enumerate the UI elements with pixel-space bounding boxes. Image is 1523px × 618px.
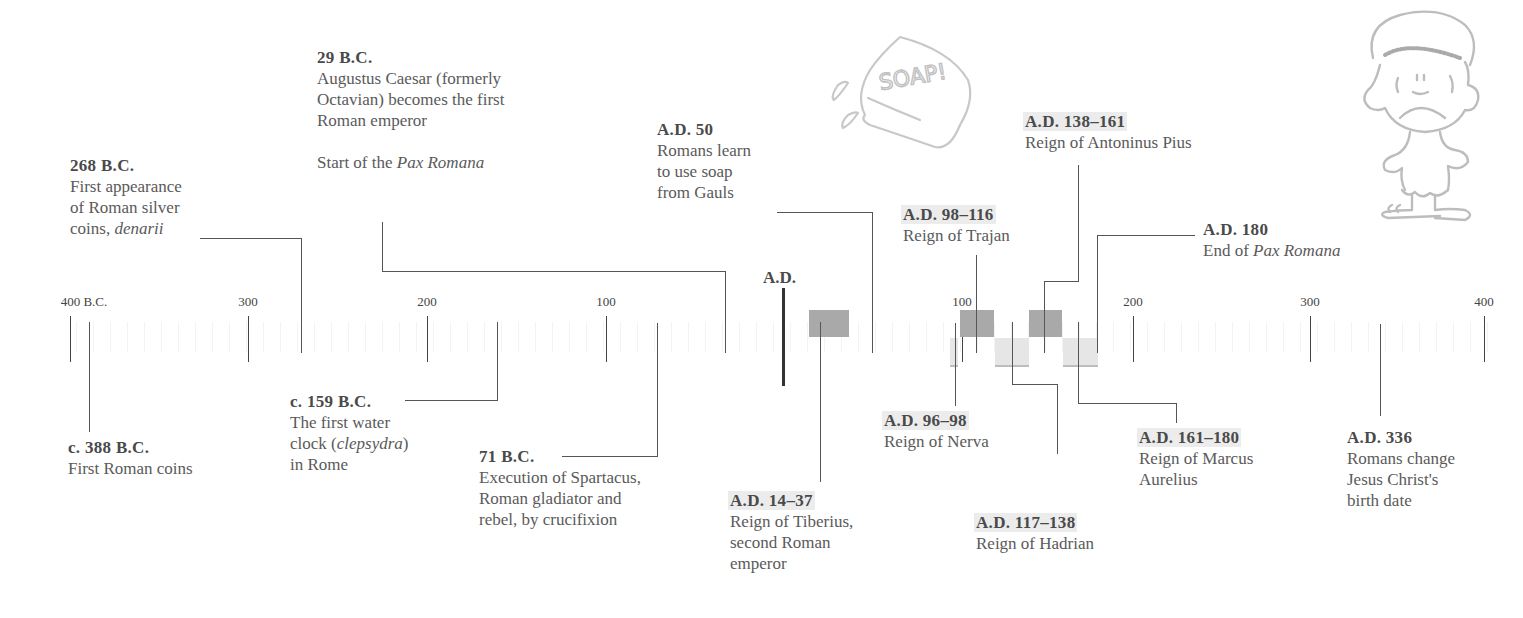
- reign-block-marcus: [1063, 338, 1098, 367]
- event-date: c. 388 B.C.: [68, 437, 193, 458]
- event-text: Romans learn: [657, 140, 751, 161]
- event-71bc: 71 B.C. Execution of Spartacus, Roman gl…: [479, 446, 641, 530]
- event-date: A.D. 336: [1347, 427, 1455, 448]
- event-ad336: A.D. 336 Romans change Jesus Christ's bi…: [1347, 427, 1455, 511]
- event-text-italic: Pax Romana: [1253, 241, 1340, 260]
- connector-ad117-v1: [1012, 322, 1013, 384]
- event-text: Reign of Hadrian: [976, 533, 1094, 554]
- tick-100bc: [606, 316, 607, 362]
- event-date: A.D. 138–161: [1023, 112, 1127, 131]
- connector-ad336: [1380, 324, 1381, 416]
- tick-400ad: [1484, 316, 1485, 362]
- connector-29bc-v1: [382, 222, 383, 272]
- event-text: Octavian) becomes the first: [317, 89, 504, 110]
- connector-ad50-h: [777, 212, 873, 213]
- tick-200ad: [1133, 316, 1134, 362]
- event-ad14: A.D. 14–37 Reign of Tiberius, second Rom…: [730, 490, 853, 574]
- event-text: clock (: [290, 434, 337, 453]
- event-ad180: A.D. 180 End of Pax Romana: [1203, 219, 1340, 261]
- connector-ad161-v2: [1176, 403, 1177, 423]
- event-text: to use soap: [657, 161, 751, 182]
- sad-boy-icon: [1340, 0, 1520, 225]
- event-date: A.D. 14–37: [728, 491, 815, 510]
- event-date: 29 B.C.: [317, 47, 504, 68]
- event-ad138: A.D. 138–161 Reign of Antoninus Pius: [1025, 111, 1192, 153]
- connector-ad180-v: [1097, 235, 1098, 353]
- tick-label-400bc: 400 B.C.: [61, 294, 108, 310]
- event-159bc: c. 159 B.C. The first water clock (cleps…: [290, 391, 409, 475]
- reign-block-trajan: [960, 310, 994, 337]
- event-text: Reign of Antoninus Pius: [1025, 132, 1192, 153]
- event-text: Jesus Christ's: [1347, 469, 1455, 490]
- event-date: A.D. 98–116: [901, 205, 996, 224]
- connector-ad117-v2: [1057, 384, 1058, 454]
- era-marker-ad: A.D.: [763, 268, 796, 288]
- event-text: in Rome: [290, 454, 409, 475]
- connector-268bc-h: [200, 238, 302, 239]
- connector-ad98: [976, 255, 977, 353]
- event-text: First appearance: [70, 176, 182, 197]
- event-text-italic: denarii: [114, 219, 163, 238]
- tick-label-200ad: 200: [1123, 294, 1143, 310]
- event-date: A.D. 117–138: [974, 513, 1077, 532]
- tick-400bc: [70, 316, 71, 362]
- connector-ad117-h: [1012, 384, 1058, 385]
- connector-ad138-h: [1044, 281, 1079, 282]
- connector-388bc: [89, 322, 90, 432]
- timeline-axis-background: [60, 322, 1500, 352]
- event-text: Aurelius: [1139, 469, 1253, 490]
- connector-71bc-v: [657, 323, 658, 457]
- event-text: rebel, by crucifixion: [479, 509, 641, 530]
- event-text: Reign of Trajan: [903, 225, 1010, 246]
- connector-29bc-h: [382, 271, 726, 272]
- reign-block-nerva: [950, 338, 958, 367]
- event-ad98: A.D. 98–116 Reign of Trajan: [903, 204, 1010, 246]
- event-text: First Roman coins: [68, 458, 193, 479]
- tick-label-400ad: 400: [1474, 294, 1494, 310]
- event-ad161: A.D. 161–180 Reign of Marcus Aurelius: [1139, 427, 1253, 490]
- event-text: ): [403, 434, 409, 453]
- reign-block-antoninus: [1029, 310, 1062, 337]
- event-text: Roman emperor: [317, 110, 504, 131]
- event-date: A.D. 180: [1203, 219, 1340, 240]
- event-date: A.D. 50: [657, 119, 751, 140]
- event-text: Romans change: [1347, 448, 1455, 469]
- event-388bc: c. 388 B.C. First Roman coins: [68, 437, 193, 479]
- connector-159bc-h: [405, 400, 498, 401]
- connector-268bc-v: [301, 238, 302, 353]
- tick-300ad: [1310, 316, 1311, 362]
- event-29bc: 29 B.C. Augustus Caesar (formerly Octavi…: [317, 47, 504, 173]
- event-text: End of: [1203, 241, 1253, 260]
- event-text: Roman gladiator and: [479, 488, 641, 509]
- event-text: second Roman: [730, 532, 853, 553]
- event-date: A.D. 96–98: [882, 411, 969, 430]
- event-text: The first water: [290, 412, 409, 433]
- connector-ad50-v: [872, 212, 873, 353]
- event-ad117: A.D. 117–138 Reign of Hadrian: [976, 512, 1094, 554]
- tick-label-200bc: 200: [417, 294, 437, 310]
- connector-ad14: [820, 322, 821, 482]
- ad-divider-line: [782, 288, 785, 386]
- event-text: Reign of Tiberius,: [730, 511, 853, 532]
- reign-block-tiberius: [809, 310, 849, 337]
- connector-ad161-v1: [1078, 322, 1079, 404]
- event-date: c. 159 B.C.: [290, 391, 409, 412]
- event-text: of Roman silver: [70, 197, 182, 218]
- event-text: from Gauls: [657, 182, 751, 203]
- connector-159bc-v: [497, 322, 498, 401]
- tick-300bc: [248, 316, 249, 362]
- soap-text: SOAP!: [877, 59, 948, 95]
- connector-29bc-v2: [725, 271, 726, 353]
- event-date: 71 B.C.: [479, 446, 641, 467]
- event-text: Start of the: [317, 153, 397, 172]
- event-text: emperor: [730, 553, 853, 574]
- event-date: A.D. 161–180: [1137, 428, 1241, 447]
- event-text: birth date: [1347, 490, 1455, 511]
- tick-label-300ad: 300: [1300, 294, 1320, 310]
- event-text-italic: clepsydra: [337, 434, 403, 453]
- connector-ad161-h: [1078, 403, 1177, 404]
- event-text: Reign of Marcus: [1139, 448, 1253, 469]
- tick-label-300bc: 300: [238, 294, 258, 310]
- connector-ad180-h: [1097, 235, 1195, 236]
- event-ad50: A.D. 50 Romans learn to use soap from Ga…: [657, 119, 751, 203]
